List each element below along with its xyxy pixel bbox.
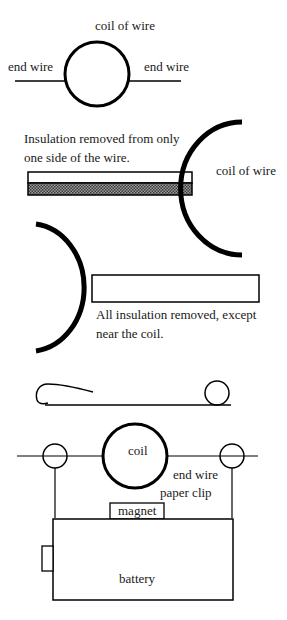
- battery-label: battery: [119, 571, 156, 586]
- coil-circle: [65, 42, 129, 106]
- coil-label: coil: [128, 443, 148, 458]
- wire-bare-side: [28, 172, 192, 183]
- battery: [53, 519, 233, 600]
- caption-line-1: All insulation removed, except: [96, 307, 257, 322]
- caption-line-1: Insulation removed from only: [24, 131, 180, 146]
- panel-assembled-motor: coil end wire paper clip magnet battery: [17, 424, 258, 600]
- end-wire-label: end wire: [173, 467, 218, 482]
- motor-diagram: coil of wire end wire end wire Insulatio…: [0, 0, 287, 620]
- paper-clip-label: paper clip: [160, 485, 212, 500]
- paper-clip-loop: [205, 381, 229, 405]
- caption-line-2: one side of the wire.: [24, 150, 130, 165]
- caption-line-2: near the coil.: [96, 326, 164, 341]
- magnet-label: magnet: [118, 503, 157, 518]
- coil-label: coil of wire: [216, 163, 276, 178]
- coil-label: coil of wire: [95, 18, 155, 33]
- paper-clip-shape: [36, 384, 93, 404]
- wire-insulated-side: [28, 183, 192, 195]
- battery-terminal: [42, 546, 53, 571]
- end-wire-right-label: end wire: [144, 59, 189, 74]
- bare-wire: [92, 275, 259, 302]
- panel-paper-clip-side: [36, 381, 231, 405]
- end-wire-left-label: end wire: [8, 59, 53, 74]
- panel-full-removal: All insulation removed, except near the …: [36, 224, 259, 351]
- coil-arc-left: [36, 224, 84, 351]
- panel-coil-overview: coil of wire end wire end wire: [8, 18, 189, 106]
